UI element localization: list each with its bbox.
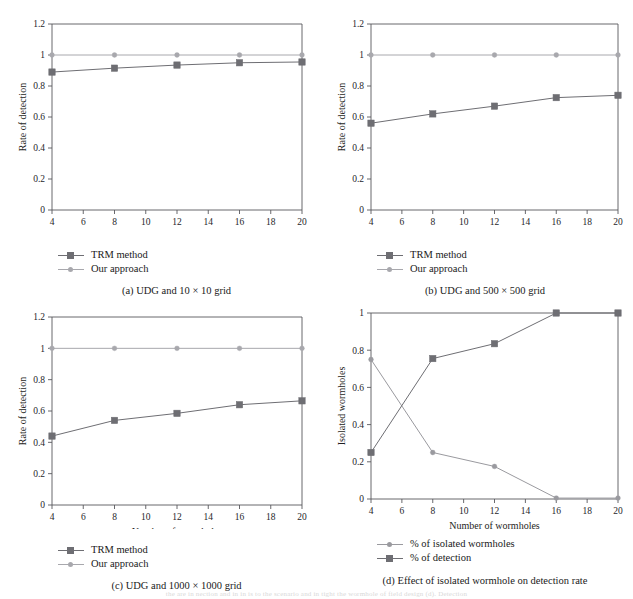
svg-text:0.8: 0.8	[352, 81, 364, 91]
svg-text:12: 12	[490, 217, 500, 227]
svg-text:0.2: 0.2	[33, 174, 45, 184]
legend-dot-marker-icon	[377, 538, 403, 550]
svg-text:4: 4	[50, 512, 55, 522]
svg-text:0.6: 0.6	[33, 112, 45, 122]
svg-text:0: 0	[359, 494, 364, 504]
svg-text:0.4: 0.4	[352, 143, 364, 153]
svg-text:4: 4	[369, 217, 374, 227]
legend-item: TRM method	[58, 543, 148, 557]
svg-text:10: 10	[459, 506, 469, 516]
svg-text:8: 8	[112, 217, 117, 227]
svg-text:0.4: 0.4	[33, 438, 45, 448]
svg-text:10: 10	[141, 512, 151, 522]
legend-item-label: TRM method	[410, 248, 467, 262]
panel-b: 00.20.40.60.811.2468101214161820Number o…	[317, 0, 633, 299]
svg-text:0.4: 0.4	[352, 420, 364, 430]
svg-text:14: 14	[204, 512, 214, 522]
svg-text:18: 18	[266, 217, 276, 227]
svg-text:0: 0	[359, 205, 364, 215]
legend-dot-marker-icon	[58, 558, 84, 570]
svg-text:8: 8	[112, 512, 117, 522]
svg-text:8: 8	[430, 217, 435, 227]
svg-text:Rate of detection: Rate of detection	[17, 83, 28, 151]
legend-d: % of isolated wormholes% of detection	[377, 537, 515, 565]
svg-text:1: 1	[359, 50, 364, 60]
svg-text:16: 16	[552, 217, 562, 227]
panel-c: 00.20.40.60.811.2468101214161820Number o…	[0, 299, 317, 599]
svg-text:20: 20	[613, 506, 623, 516]
svg-text:1.2: 1.2	[33, 19, 45, 29]
legend-item: Our approach	[377, 262, 467, 276]
svg-text:0.2: 0.2	[352, 457, 364, 467]
plot-a: 00.20.40.60.811.2468101214161820Number o…	[0, 0, 317, 230]
svg-text:18: 18	[582, 217, 592, 227]
plot-d: 00.20.40.60.81468101214161820Number of w…	[317, 299, 633, 529]
plot-c: 00.20.40.60.811.2468101214161820Number o…	[0, 299, 317, 529]
svg-text:1.2: 1.2	[352, 19, 364, 29]
svg-text:Isolated wormholes: Isolated wormholes	[336, 367, 347, 446]
svg-text:6: 6	[400, 506, 405, 516]
legend-item-label: Our approach	[410, 262, 467, 276]
legend-square-marker-icon	[58, 249, 84, 261]
svg-text:16: 16	[235, 512, 245, 522]
svg-text:Number of wormholes: Number of wormholes	[449, 520, 540, 529]
legend-item-label: TRM method	[91, 543, 148, 557]
svg-text:0.8: 0.8	[352, 346, 364, 356]
legend-item: TRM method	[377, 248, 467, 262]
svg-text:14: 14	[521, 506, 531, 516]
svg-text:0.2: 0.2	[33, 469, 45, 479]
legend-b: TRM methodOur approach	[377, 248, 467, 276]
svg-text:0.6: 0.6	[352, 112, 364, 122]
legend-item-label: % of detection	[410, 551, 471, 565]
svg-text:0.8: 0.8	[33, 375, 45, 385]
svg-text:12: 12	[490, 506, 500, 516]
legend-square-marker-icon	[377, 249, 403, 261]
svg-text:20: 20	[297, 512, 307, 522]
svg-text:4: 4	[369, 506, 374, 516]
svg-text:18: 18	[266, 512, 276, 522]
legend-item: Our approach	[58, 262, 148, 276]
svg-text:20: 20	[297, 217, 307, 227]
svg-text:0.6: 0.6	[352, 383, 364, 393]
legend-item: Our approach	[58, 557, 148, 571]
caption-a: (a) UDG and 10 × 10 grid	[0, 285, 335, 296]
legend-item-label: Our approach	[91, 557, 148, 571]
legend-square-marker-icon	[377, 552, 403, 564]
svg-text:1.2: 1.2	[33, 312, 45, 322]
svg-text:14: 14	[521, 217, 531, 227]
legend-item: % of isolated wormholes	[377, 537, 515, 551]
panel-a: 00.20.40.60.811.2468101214161820Number o…	[0, 0, 317, 299]
legend-a: TRM methodOur approach	[58, 248, 148, 276]
legend-c: TRM methodOur approach	[58, 543, 148, 571]
plot-b: 00.20.40.60.811.2468101214161820Number o…	[317, 0, 633, 230]
svg-text:0.6: 0.6	[33, 406, 45, 416]
svg-text:12: 12	[172, 217, 182, 227]
svg-text:1: 1	[359, 308, 364, 318]
svg-text:14: 14	[204, 217, 214, 227]
svg-text:8: 8	[430, 506, 435, 516]
legend-item-label: TRM method	[91, 248, 148, 262]
page-bleed-text: the are in nection and in in is to the s…	[0, 590, 633, 598]
svg-text:0: 0	[40, 205, 45, 215]
svg-text:18: 18	[582, 506, 592, 516]
svg-text:10: 10	[459, 217, 469, 227]
legend-item: % of detection	[377, 551, 515, 565]
caption-d: (d) Effect of isolated wormhole on detec…	[317, 575, 633, 586]
svg-text:10: 10	[141, 217, 151, 227]
panel-d: 00.20.40.60.81468101214161820Number of w…	[317, 299, 633, 599]
svg-text:20: 20	[613, 217, 623, 227]
svg-text:Rate of detection: Rate of detection	[17, 377, 28, 445]
svg-text:0.4: 0.4	[33, 143, 45, 153]
svg-text:6: 6	[400, 217, 405, 227]
svg-text:16: 16	[235, 217, 245, 227]
svg-text:12: 12	[172, 512, 182, 522]
svg-text:Rate of detection: Rate of detection	[336, 83, 347, 151]
svg-text:Number of wormholes: Number of wormholes	[132, 526, 223, 529]
svg-text:0: 0	[40, 500, 45, 510]
legend-dot-marker-icon	[377, 263, 403, 275]
legend-item-label: Our approach	[91, 262, 148, 276]
svg-text:0.8: 0.8	[33, 81, 45, 91]
svg-text:1: 1	[40, 50, 45, 60]
caption-b: (b) UDG and 500 × 500 grid	[317, 285, 633, 296]
svg-text:6: 6	[81, 217, 86, 227]
